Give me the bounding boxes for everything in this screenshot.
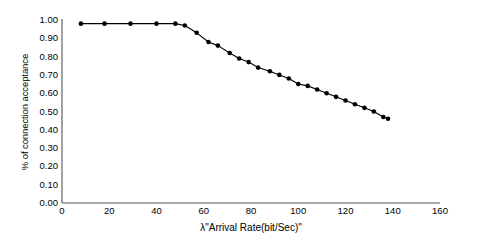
x-tick-label: 20 <box>104 205 115 216</box>
x-axis-label: λ"Arrival Rate(bit/Sec)" <box>62 222 440 233</box>
x-tick-label: 0 <box>59 205 64 216</box>
x-tick-label: 60 <box>198 205 209 216</box>
x-tick-label: 80 <box>246 205 257 216</box>
x-tick-label: 100 <box>290 205 306 216</box>
x-tick-label: 140 <box>385 205 401 216</box>
x-tick-label: 160 <box>432 205 448 216</box>
chart-figure: % of connection acceptance 0.000.100.200… <box>0 0 498 249</box>
x-axis-tick-labels: 020406080100120140160 <box>0 0 498 249</box>
x-tick-label: 40 <box>151 205 162 216</box>
x-tick-label: 120 <box>338 205 354 216</box>
